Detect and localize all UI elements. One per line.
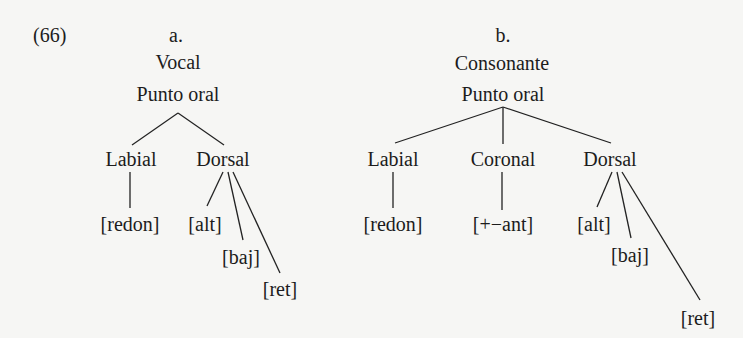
edge-b-punto-dorsal <box>503 107 611 143</box>
edge-a-punto-dorsal <box>178 113 224 145</box>
example-number: (66) <box>33 24 66 46</box>
tree-b-feature-alt: [alt] <box>577 213 610 235</box>
tree-a-punto-oral: Punto oral <box>137 83 220 105</box>
tree-a-feature-ret: [ret] <box>263 278 297 300</box>
tree-a-feature-alt: [alt] <box>188 213 221 235</box>
tree-a-dorsal: Dorsal <box>196 148 249 170</box>
edge-b-dorsal-baj <box>617 172 631 238</box>
tree-b-feature-ant: [+−ant] <box>473 213 533 235</box>
edge-b-punto-labial <box>395 107 503 143</box>
edge-b-dorsal-ret <box>622 172 700 300</box>
edge-a-punto-labial <box>132 113 178 145</box>
tree-a-labial: Labial <box>105 148 156 170</box>
tree-b-root: Consonante <box>455 52 549 74</box>
tree-a-label: a. <box>169 24 183 46</box>
edge-a-dorsal-baj <box>228 172 243 240</box>
tree-b-feature-baj: [baj] <box>611 244 649 266</box>
tree-b-label: b. <box>496 24 511 46</box>
tree-b-feature-ret: [ret] <box>681 307 715 329</box>
tree-a-feature-baj: [baj] <box>222 246 260 268</box>
edge-a-dorsal-alt <box>207 172 223 206</box>
tree-b-coronal: Coronal <box>471 148 535 170</box>
tree-a-root: Vocal <box>155 51 200 73</box>
edge-b-dorsal-alt <box>597 172 612 207</box>
tree-a-feature-redon: [redon] <box>101 213 160 235</box>
tree-b-punto-oral: Punto oral <box>462 83 545 105</box>
tree-b-labial: Labial <box>367 148 418 170</box>
tree-b-feature-redon: [redon] <box>364 213 423 235</box>
tree-b-dorsal: Dorsal <box>583 148 636 170</box>
